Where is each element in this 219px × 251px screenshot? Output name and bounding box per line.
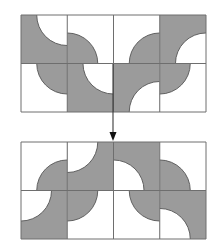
tile (21, 15, 67, 64)
tile (160, 191, 206, 240)
tile (21, 64, 67, 113)
tile (160, 15, 206, 64)
tile (160, 64, 206, 113)
tile (21, 191, 67, 240)
tile (21, 142, 67, 191)
tile (160, 142, 206, 191)
tile (67, 191, 113, 240)
arrow-head (110, 132, 117, 141)
tile (67, 64, 113, 113)
bottom-grid (21, 142, 206, 239)
tile (114, 191, 160, 240)
diagram-canvas (0, 0, 219, 251)
tile (114, 15, 160, 64)
transformation-diagram (0, 0, 219, 251)
tile (114, 64, 160, 113)
tile (67, 15, 113, 64)
tile (114, 142, 160, 191)
tile (67, 142, 113, 191)
